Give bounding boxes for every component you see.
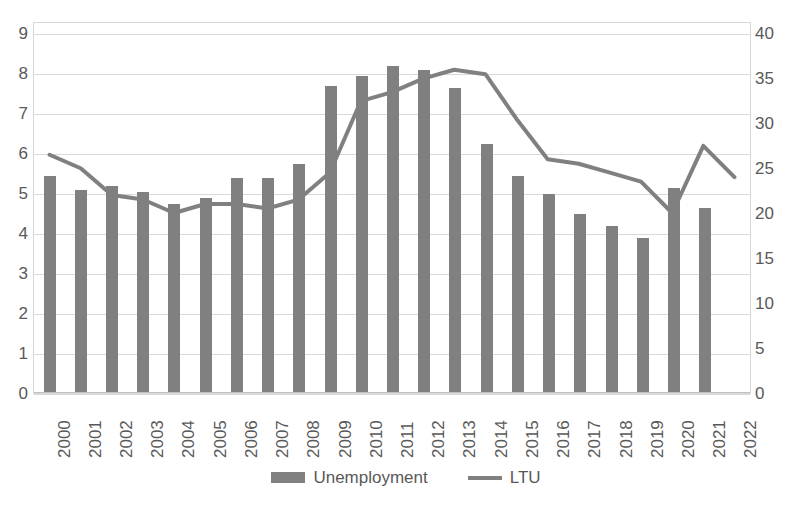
ltu-line-path	[50, 70, 735, 213]
x-tick-label: 2021	[711, 420, 728, 458]
x-tick-label: 2006	[243, 420, 260, 458]
y-tick-left: 1	[19, 345, 28, 362]
y-tick-right: 35	[755, 70, 774, 87]
x-tick-label: 2020	[680, 420, 697, 458]
legend-label-ltu: LTU	[510, 468, 541, 487]
gridline	[34, 394, 750, 395]
y-tick-left: 9	[19, 25, 28, 42]
x-tick-label: 2014	[493, 420, 510, 458]
x-tick-label: 2011	[399, 421, 416, 458]
y-tick-right: 10	[755, 295, 774, 312]
x-tick-label: 2003	[149, 420, 166, 458]
y-tick-right: 5	[755, 340, 764, 357]
bar-swatch-icon	[271, 472, 305, 483]
x-tick-label: 2019	[649, 420, 666, 458]
x-tick-label: 2005	[212, 420, 229, 458]
x-tick-label: 2008	[305, 420, 322, 458]
x-tick-label: 2007	[274, 420, 291, 458]
x-tick-label: 2013	[461, 420, 478, 458]
x-tick-label: 2001	[87, 420, 104, 458]
x-tick-label: 2000	[56, 420, 73, 458]
plot-area	[33, 22, 751, 394]
x-tick-label: 2018	[618, 420, 635, 458]
legend-item-unemployment[interactable]: Unemployment	[271, 468, 427, 487]
y-tick-right: 15	[755, 250, 774, 267]
x-tick-label: 2002	[118, 420, 135, 458]
y-tick-right: 25	[755, 160, 774, 177]
y-tick-left: 3	[19, 265, 28, 282]
y-tick-left: 5	[19, 185, 28, 202]
y-tick-left: 7	[19, 105, 28, 122]
x-tick-label: 2009	[337, 420, 354, 458]
y-tick-right: 0	[755, 385, 764, 402]
y-axis-left: 0123456789	[0, 22, 28, 394]
legend-label-unemployment: Unemployment	[313, 468, 427, 487]
x-tick-label: 2017	[586, 420, 603, 458]
y-axis-right: 0510152025303540	[755, 22, 795, 394]
y-tick-left: 8	[19, 65, 28, 82]
chart-legend: Unemployment LTU	[0, 468, 812, 487]
line-series-ltu	[34, 23, 750, 393]
y-tick-right: 20	[755, 205, 774, 222]
x-tick-label: 2022	[742, 420, 759, 458]
chart-container: 0123456789 0510152025303540 200020012002…	[0, 0, 812, 506]
series-layer	[34, 23, 750, 393]
x-tick-label: 2015	[524, 420, 541, 458]
line-swatch-icon	[468, 476, 502, 480]
x-tick-label: 2012	[430, 420, 447, 458]
x-tick-label: 2016	[555, 420, 572, 458]
x-tick-label: 2004	[180, 420, 197, 458]
y-tick-left: 0	[19, 385, 28, 402]
y-tick-left: 4	[19, 225, 28, 242]
y-tick-left: 6	[19, 145, 28, 162]
y-tick-right: 40	[755, 25, 774, 42]
y-tick-right: 30	[755, 115, 774, 132]
y-tick-left: 2	[19, 305, 28, 322]
x-axis-labels: 2000200120022003200420052006200720082009…	[33, 396, 751, 462]
x-tick-label: 2010	[368, 420, 385, 458]
legend-item-ltu[interactable]: LTU	[468, 468, 541, 487]
